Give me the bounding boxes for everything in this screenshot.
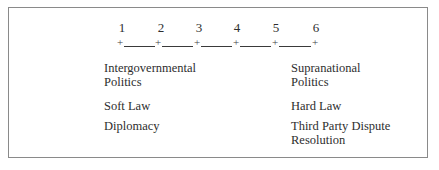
scale-point-5: 5 [270, 20, 282, 36]
right-label-third-party-dispute: Third Party Dispute [291, 120, 390, 133]
scale-point-3: 3 [193, 20, 205, 36]
scale-segment-2-3 [162, 46, 193, 47]
left-label-soft-law: Soft Law [104, 100, 150, 113]
right-label-supranational: Supranational [291, 62, 360, 75]
scale-point-2: 2 [155, 20, 167, 36]
scale-segment-3-4 [201, 46, 232, 47]
right-label-resolution: Resolution [291, 134, 345, 147]
right-label-politics: Politics [291, 76, 329, 89]
diagram-frame [8, 7, 428, 158]
scale-segment-5-6 [279, 46, 311, 47]
scale-point-6: 6 [310, 20, 322, 36]
scale-point-4: 4 [231, 20, 243, 36]
right-label-hard-law: Hard Law [291, 100, 341, 113]
scale-segment-4-5 [240, 46, 271, 47]
scale-tick-6: + [310, 35, 320, 49]
scale-segment-1-2 [124, 46, 155, 47]
scale-point-1: 1 [116, 20, 128, 36]
left-label-politics: Politics [104, 76, 142, 89]
left-label-intergovernmental: Intergovernmental [104, 62, 196, 75]
left-label-diplomacy: Diplomacy [104, 120, 160, 133]
